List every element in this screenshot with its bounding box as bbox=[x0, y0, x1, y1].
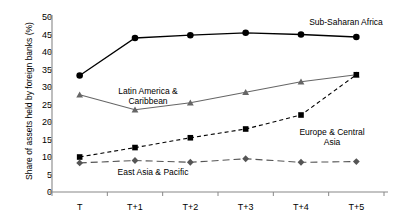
series-label-sub-saharan-africa: Sub-Saharan Africa bbox=[286, 18, 406, 28]
data-point-square bbox=[77, 154, 83, 160]
data-point-diamond bbox=[187, 159, 194, 166]
data-point-circle bbox=[76, 72, 83, 79]
series-line-east-asia-pacific bbox=[80, 159, 357, 163]
series-label-latin-america-caribbean: Latin America & Caribbean bbox=[105, 87, 191, 107]
plot-area bbox=[0, 0, 410, 223]
data-point-circle bbox=[132, 35, 139, 42]
data-point-square bbox=[188, 135, 194, 141]
data-point-square bbox=[132, 145, 138, 151]
data-point-diamond bbox=[353, 158, 360, 165]
data-point-diamond bbox=[298, 159, 305, 166]
data-point-circle bbox=[353, 34, 360, 41]
data-point-square bbox=[354, 72, 360, 78]
foreign-bank-asset-share-chart: Share of assets held by foreign banks (%… bbox=[0, 0, 410, 223]
data-point-circle bbox=[187, 32, 194, 39]
data-point-square bbox=[243, 126, 249, 132]
series-label-europe-central-asia: Europe & Central Asia bbox=[280, 128, 384, 148]
series-line-sub-saharan-africa bbox=[80, 33, 357, 76]
data-point-diamond bbox=[76, 160, 83, 167]
data-point-diamond bbox=[132, 157, 139, 164]
data-point-square bbox=[298, 112, 304, 118]
data-point-circle bbox=[298, 31, 305, 38]
data-point-diamond bbox=[242, 155, 249, 162]
series-label-east-asia-pacific: East Asia & Pacific bbox=[93, 168, 213, 178]
data-point-triangle bbox=[76, 92, 83, 98]
data-point-circle bbox=[242, 29, 249, 36]
